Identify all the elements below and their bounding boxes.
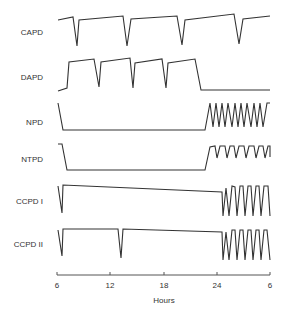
x-axis [57,272,270,275]
series-line-ccpd-i [58,185,270,216]
x-tick-label: 24 [213,281,222,290]
series-line-capd [58,14,270,46]
chart-plot [0,0,285,318]
x-tick-label: 12 [106,281,115,290]
series-line-dapd [58,58,270,91]
series-line-ccpd-ii [58,229,270,260]
x-axis-title: Hours [153,296,174,305]
series-line-npd [58,103,270,130]
series-line-ntpd [58,144,270,170]
x-tick-label: 6 [55,281,59,290]
x-tick-label: 6 [268,281,272,290]
x-tick-label: 18 [160,281,169,290]
